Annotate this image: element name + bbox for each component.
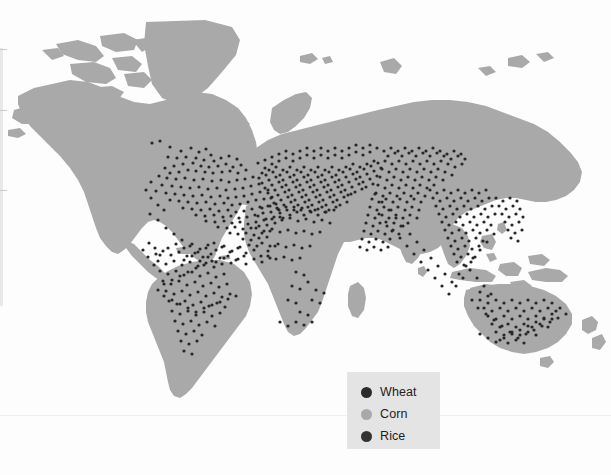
- legend-item-corn[interactable]: Corn: [361, 403, 440, 425]
- crop-point-marker: [482, 284, 485, 287]
- crop-point-marker: [364, 221, 367, 224]
- crop-point-marker: [266, 188, 269, 191]
- crop-point-marker: [182, 246, 185, 249]
- crop-point-marker: [347, 180, 350, 183]
- crop-point-marker: [215, 301, 218, 304]
- crop-point-marker: [351, 172, 354, 175]
- crop-point-marker: [550, 301, 553, 304]
- crop-point-marker: [407, 151, 410, 154]
- crop-point-marker: [316, 165, 319, 168]
- crop-point-marker: [278, 211, 281, 214]
- crop-point-marker: [459, 255, 462, 258]
- crop-point-marker: [345, 200, 348, 203]
- crop-point-marker: [225, 226, 228, 229]
- crop-point-marker: [506, 322, 509, 325]
- crop-point-marker: [380, 200, 383, 203]
- crop-point-marker: [214, 248, 217, 251]
- crop-point-marker: [387, 208, 390, 211]
- crop-point-marker: [310, 232, 313, 235]
- crop-point-marker: [365, 172, 368, 175]
- crop-point-marker: [354, 150, 357, 153]
- crop-point-marker: [314, 288, 317, 291]
- crop-point-marker: [201, 255, 204, 258]
- crop-point-marker: [388, 237, 391, 240]
- crop-point-marker: [457, 228, 460, 231]
- crop-point-marker: [206, 243, 209, 246]
- crop-point-marker: [195, 339, 198, 342]
- crop-point-marker: [276, 242, 279, 245]
- crop-point-marker: [270, 183, 273, 186]
- crop-point-marker: [192, 329, 195, 332]
- crop-point-marker: [516, 239, 519, 242]
- crop-point-marker: [277, 180, 280, 183]
- crop-point-marker: [173, 192, 176, 195]
- crop-point-marker: [302, 175, 305, 178]
- crop-point-marker: [181, 162, 184, 165]
- crop-point-marker: [542, 298, 545, 301]
- crop-point-marker: [335, 198, 338, 201]
- crop-point-marker: [369, 164, 372, 167]
- crop-point-marker: [154, 252, 157, 255]
- crop-point-marker: [146, 255, 149, 258]
- crop-point-marker: [344, 165, 347, 168]
- crop-point-marker: [444, 215, 447, 218]
- crop-point-marker: [354, 177, 357, 180]
- crop-point-marker: [466, 252, 469, 255]
- crop-point-marker: [242, 209, 245, 212]
- crop-point-marker: [209, 195, 212, 198]
- crop-point-marker: [376, 161, 379, 164]
- crop-point-marker: [311, 190, 314, 193]
- crop-point-marker: [490, 322, 493, 325]
- crop-point-marker: [209, 281, 212, 284]
- crop-point-marker: [503, 220, 506, 223]
- crop-point-marker: [289, 200, 292, 203]
- crop-point-marker: [234, 258, 237, 261]
- crop-point-marker: [380, 213, 383, 216]
- crop-point-marker: [386, 245, 389, 248]
- crop-point-marker: [281, 168, 284, 171]
- crop-point-marker: [269, 210, 272, 213]
- crop-point-marker: [199, 300, 202, 303]
- crop-point-marker: [190, 270, 193, 273]
- crop-point-marker: [244, 231, 247, 234]
- crop-point-marker: [470, 188, 473, 191]
- crop-point-marker: [260, 181, 263, 184]
- crop-point-marker: [486, 215, 489, 218]
- crop-point-marker: [337, 178, 340, 181]
- crop-point-marker: [453, 165, 456, 168]
- crop-point-marker: [222, 272, 225, 275]
- crop-point-marker: [490, 204, 493, 207]
- crop-point-marker: [166, 246, 169, 249]
- crop-point-marker: [489, 292, 492, 295]
- crop-point-marker: [256, 214, 259, 217]
- crop-point-marker: [349, 192, 352, 195]
- crop-point-marker: [167, 299, 170, 302]
- crop-point-marker: [218, 194, 221, 197]
- crop-point-marker: [227, 180, 230, 183]
- crop-point-marker: [399, 178, 402, 181]
- crop-point-marker: [445, 196, 448, 199]
- crop-point-marker: [285, 208, 288, 211]
- crop-point-marker: [295, 210, 298, 213]
- crop-point-marker: [181, 322, 184, 325]
- crop-point-marker: [283, 190, 286, 193]
- crop-point-marker: [244, 168, 247, 171]
- legend-item-wheat[interactable]: Wheat: [361, 381, 440, 403]
- crop-point-marker: [239, 163, 242, 166]
- crop-point-marker: [428, 154, 431, 157]
- world-map: [0, 0, 611, 475]
- crop-point-marker: [339, 190, 342, 193]
- legend-item-rice[interactable]: Rice: [361, 425, 440, 447]
- crop-point-marker: [367, 240, 370, 243]
- crop-point-marker: [177, 279, 180, 282]
- crop-point-marker: [343, 188, 346, 191]
- crop-point-marker: [351, 162, 354, 165]
- crop-point-marker: [554, 309, 557, 312]
- crop-point-marker: [441, 178, 444, 181]
- crop-point-marker: [194, 266, 197, 269]
- crop-point-marker: [305, 153, 308, 156]
- crop-point-marker: [481, 239, 484, 242]
- crop-point-marker: [230, 203, 233, 206]
- crop-point-marker: [308, 209, 311, 212]
- crop-point-marker: [156, 218, 159, 221]
